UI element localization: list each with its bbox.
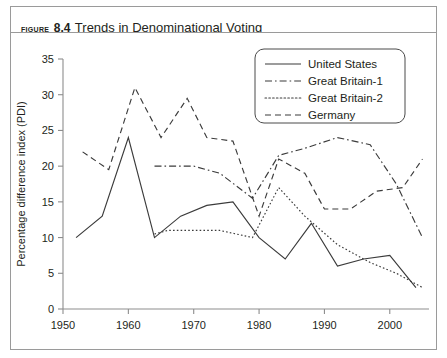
y-tick-label: 35	[42, 53, 54, 65]
line-chart: 05101520253035195019601970198019902000Pe…	[11, 33, 436, 349]
y-tick-label: 25	[42, 124, 54, 136]
chart-legend[interactable]: United StatesGreat Britain-1Great Britai…	[255, 49, 405, 123]
y-tick-label: 5	[48, 267, 54, 279]
legend-label-germany: Germany	[308, 109, 356, 121]
x-tick-label: 2000	[378, 319, 402, 331]
y-tick-label: 20	[42, 160, 54, 172]
plot-frame: 05101520253035195019601970198019902000Pe…	[10, 32, 437, 350]
legend-label-great-britain-1: Great Britain-1	[308, 75, 383, 87]
y-tick-label: 10	[42, 232, 54, 244]
x-tick-label: 1990	[312, 319, 336, 331]
y-tick-label: 30	[42, 89, 54, 101]
y-axis-title: Percentage difference index (PDI)	[15, 101, 27, 267]
figure-container: Figure 8.4 Trends in Denominational Voti…	[0, 0, 447, 358]
x-tick-label: 1950	[51, 319, 75, 331]
series-line-united-states	[76, 138, 416, 288]
figure-caption-bar: Figure 8.4 Trends in Denominational Voti…	[10, 6, 437, 32]
legend-label-united-states: United States	[308, 58, 377, 70]
legend-label-great-britain-2: Great Britain-2	[308, 92, 383, 104]
series-line-great-britain-2	[155, 188, 423, 288]
series-line-great-britain-1	[155, 138, 423, 238]
y-tick-label: 0	[48, 303, 54, 315]
x-tick-label: 1980	[247, 319, 271, 331]
y-tick-label: 15	[42, 196, 54, 208]
x-tick-label: 1970	[181, 319, 205, 331]
x-tick-label: 1960	[116, 319, 140, 331]
